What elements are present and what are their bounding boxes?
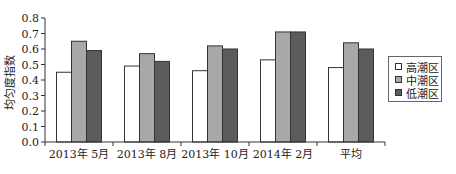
y-tick-label: 0.7: [22, 28, 40, 41]
y-tick-label: 0.4: [22, 74, 40, 87]
bars: [57, 32, 374, 142]
y-tick-label: 0.0: [22, 136, 40, 149]
bar: [276, 32, 291, 142]
x-tick-label: 2013年 8月: [117, 147, 178, 161]
bar: [125, 66, 140, 142]
bar: [329, 68, 344, 142]
x-axis: 2013年 5月2013年 8月2013年 10月2014年 2月平均: [45, 142, 385, 161]
bar: [193, 71, 208, 142]
x-tick-label: 2014年 2月: [253, 147, 314, 161]
y-tick-label: 0.8: [22, 12, 40, 25]
bar: [72, 41, 87, 142]
bar: [87, 51, 102, 142]
y-tick-label: 0.5: [22, 59, 40, 72]
bar: [344, 43, 359, 142]
bar: [261, 60, 276, 142]
y-tick-label: 0.1: [22, 121, 40, 134]
bar: [359, 49, 374, 142]
y-axis: 0.00.10.20.30.40.50.60.70.8: [22, 12, 46, 149]
y-tick-label: 0.3: [22, 90, 40, 103]
x-tick-label: 2013年 5月: [49, 147, 110, 161]
bar: [223, 49, 238, 142]
y-tick-label: 0.6: [22, 43, 40, 56]
y-axis-label: 均匀度指数: [3, 55, 17, 110]
bar: [140, 54, 155, 142]
bar: [57, 72, 72, 142]
legend-item-low: 低潮区: [395, 86, 441, 99]
x-tick-label: 平均: [340, 148, 362, 161]
bar: [155, 61, 170, 142]
legend-label: 低潮区: [406, 85, 439, 101]
x-tick-label: 2013年 10月: [181, 147, 249, 161]
bar: [291, 32, 306, 142]
y-tick-label: 0.2: [22, 105, 40, 118]
legend: 高潮区 中潮区 低潮区: [388, 56, 442, 102]
legend-swatch-icon: [395, 63, 402, 70]
legend-swatch-icon: [395, 76, 402, 83]
bar: [208, 46, 223, 142]
legend-swatch-icon: [395, 89, 402, 96]
